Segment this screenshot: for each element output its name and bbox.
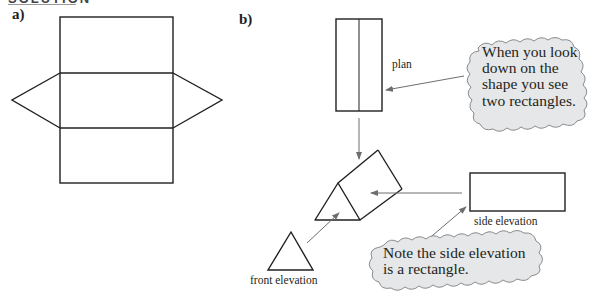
plan-view (336, 19, 382, 111)
front-elevation-label: front elevation (250, 274, 317, 286)
prism-top-edge (338, 150, 378, 183)
prism-back-edge (378, 150, 402, 189)
side-elevation-label: side elevation (474, 215, 538, 227)
front-elevation-triangle (268, 232, 313, 270)
front-view-direction-arrow (307, 213, 339, 243)
prism-bottom-edge (360, 189, 402, 220)
plan-callout-arrow (386, 76, 464, 90)
plan-callout-text: When you look down on the shape you see … (482, 44, 578, 109)
plan-callout-line: down on the (482, 60, 578, 76)
triangular-prism (315, 150, 402, 220)
prism-net (12, 17, 222, 183)
net-rectangles-outline (60, 17, 173, 183)
net-right-triangle (173, 73, 222, 128)
side-callout-line: is a rectangle. (383, 261, 525, 277)
plan-callout-line: two rectangles. (482, 93, 578, 109)
net-left-triangle (12, 73, 60, 128)
plan-callout-line: When you look (482, 44, 578, 60)
side-callout-line: Note the side elevation (383, 245, 525, 261)
plan-label: plan (392, 58, 412, 70)
side-callout-text: Note the side elevation is a rectangle. (383, 245, 525, 277)
plan-callout-line: shape you see (482, 76, 578, 92)
side-elevation-rectangle (470, 173, 565, 211)
